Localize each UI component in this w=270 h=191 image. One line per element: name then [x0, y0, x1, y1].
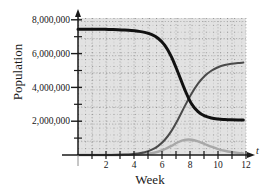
x-tick-label-4: 4	[122, 160, 146, 170]
x-tick-label-2: 2	[94, 160, 118, 170]
x-axis-variable-label: t	[256, 145, 259, 156]
y-axis-arrow	[75, 9, 81, 17]
x-tick-label-8: 8	[178, 160, 202, 170]
y-tick-label-8000000: 8,000,000	[8, 15, 70, 25]
y-tick-label-2000000: 2,000,000	[8, 116, 70, 126]
x-axis-arrow	[247, 152, 255, 158]
x-tick-label-12: 12	[234, 160, 258, 170]
x-axis-title: Week	[105, 172, 195, 188]
x-tick-label-6: 6	[150, 160, 174, 170]
y-axis-title: Population	[10, 27, 26, 117]
x-tick-label-10: 10	[206, 160, 230, 170]
